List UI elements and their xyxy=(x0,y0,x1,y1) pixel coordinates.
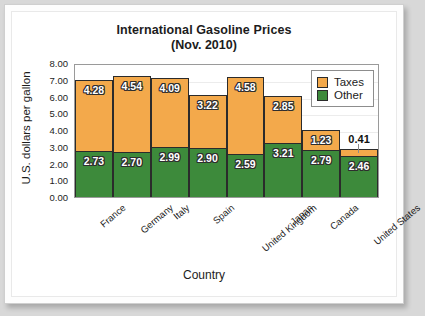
y-axis-tick-label: 8.00 xyxy=(34,59,68,68)
bar-value-label-other: 2.73 xyxy=(76,155,112,167)
x-axis-title: Country xyxy=(12,268,396,282)
y-axis-tick-label: 7.00 xyxy=(34,76,68,85)
chart-canvas: International Gasoline Prices (Nov. 2010… xyxy=(11,11,397,297)
bar-segment-other[interactable]: 2.59 xyxy=(227,154,265,197)
bar-segment-other[interactable]: 2.70 xyxy=(113,152,151,197)
bar-segment-other[interactable]: 2.46 xyxy=(340,156,378,197)
bar-value-label-other: 3.21 xyxy=(265,147,301,159)
bar-column[interactable]: 4.092.99 xyxy=(151,65,189,197)
bar-column[interactable]: 2.853.21 xyxy=(264,65,302,197)
legend-item-other[interactable]: Other xyxy=(317,89,364,101)
legend-item-taxes[interactable]: Taxes xyxy=(317,76,364,88)
y-axis-tick-label: 4.00 xyxy=(34,126,68,135)
bar-segment-other[interactable]: 2.99 xyxy=(151,147,189,197)
bar-value-label-taxes: 4.54 xyxy=(114,80,150,92)
bar-segment-other[interactable]: 2.90 xyxy=(189,148,227,197)
bar-segment-other[interactable]: 2.79 xyxy=(302,150,340,197)
bar-value-label-taxes: 4.09 xyxy=(152,82,188,94)
bar-value-label-other: 2.99 xyxy=(152,151,188,163)
bar-column[interactable]: 4.282.73 xyxy=(75,65,113,197)
bar-segment-taxes[interactable]: 4.09 xyxy=(151,78,189,147)
y-axis-tick-label: 2.00 xyxy=(34,160,68,169)
chart-legend: Taxes Other xyxy=(311,70,374,107)
y-axis-tick-label: 6.00 xyxy=(34,93,68,102)
bar-column[interactable]: 4.582.59 xyxy=(227,65,265,197)
bar-segment-taxes[interactable]: 1.23 xyxy=(302,130,340,151)
bar-segment-other[interactable]: 2.73 xyxy=(75,151,113,197)
y-axis-tick-label: 1.00 xyxy=(34,176,68,185)
legend-label-taxes: Taxes xyxy=(334,76,364,88)
bar-column[interactable]: 3.222.90 xyxy=(189,65,227,197)
bar-segment-taxes[interactable]: 0.41 xyxy=(340,149,378,156)
bar-segment-other[interactable]: 3.21 xyxy=(264,143,302,197)
bar-value-label-other: 2.90 xyxy=(190,152,226,164)
bar-value-label-taxes: 0.41 xyxy=(339,133,379,145)
bar-segment-taxes[interactable]: 4.54 xyxy=(113,76,151,152)
y-axis-tick-label: 0.00 xyxy=(34,193,68,202)
bar-value-label-taxes: 3.22 xyxy=(190,99,226,111)
bar-value-label-taxes: 2.85 xyxy=(265,100,301,112)
plot-area: 4.282.734.542.704.092.993.222.904.582.59… xyxy=(74,64,379,198)
chart-card: International Gasoline Prices (Nov. 2010… xyxy=(4,4,404,304)
bar-segment-taxes[interactable]: 2.85 xyxy=(264,96,302,144)
label-leader-line xyxy=(358,144,359,153)
bar-value-label-other: 2.46 xyxy=(341,160,377,172)
bar-segment-taxes[interactable]: 3.22 xyxy=(189,95,227,149)
y-axis-tick-label: 5.00 xyxy=(34,109,68,118)
bar-segment-taxes[interactable]: 4.58 xyxy=(227,77,265,154)
legend-swatch-taxes xyxy=(317,77,328,88)
legend-label-other: Other xyxy=(334,89,363,101)
bar-value-label-other: 2.59 xyxy=(228,158,264,170)
y-axis-tick-label: 3.00 xyxy=(34,143,68,152)
bar-segment-taxes[interactable]: 4.28 xyxy=(75,80,113,152)
bar-value-label-other: 2.70 xyxy=(114,156,150,168)
bar-column[interactable]: 4.542.70 xyxy=(113,65,151,197)
bar-value-label-taxes: 4.58 xyxy=(228,81,264,93)
bar-value-label-taxes: 1.23 xyxy=(303,134,339,146)
legend-swatch-other xyxy=(317,90,328,101)
bar-value-label-taxes: 4.28 xyxy=(76,84,112,96)
bar-value-label-other: 2.79 xyxy=(303,154,339,166)
